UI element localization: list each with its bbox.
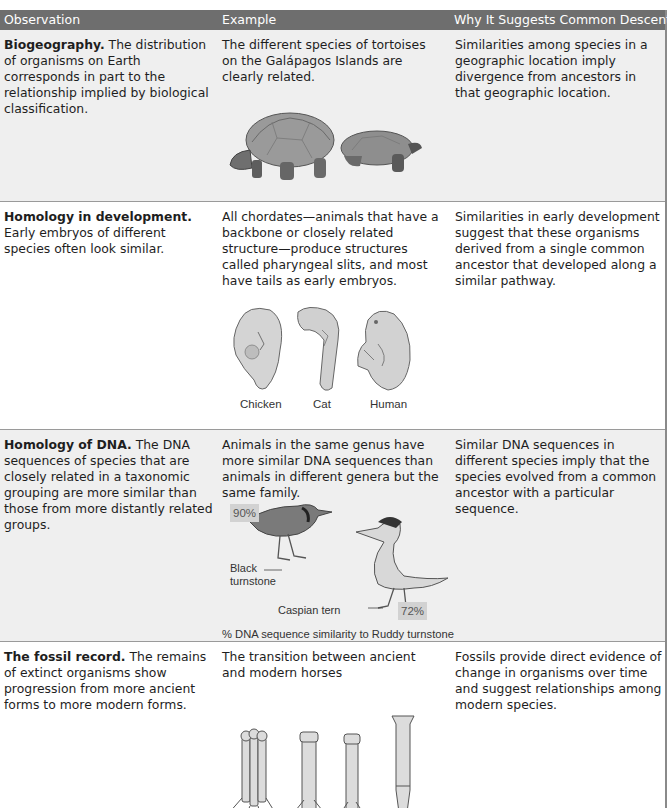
observation-title: The fossil record. (4, 649, 126, 664)
label-black-turnstone: Black turnstone (230, 562, 290, 588)
cropped-caption-strip (0, 0, 670, 10)
observation-cell: The fossil record. The remains of extinc… (0, 642, 218, 808)
example-cell: All chordates—animals that have a backbo… (218, 202, 446, 429)
textbook-page: Observation Example Why It Suggests Comm… (0, 0, 670, 808)
example-text: All chordates—animals that have a backbo… (222, 209, 442, 289)
observation-cell: Homology of DNA. The DNA sequences of sp… (0, 430, 218, 641)
observation-title: Homology in development. (4, 209, 192, 224)
why-cell: Fossils provide direct evidence of chang… (446, 642, 667, 808)
header-why: Why It Suggests Common Descent (446, 10, 667, 30)
label-chicken: Chicken (240, 396, 282, 412)
label-human: Human (370, 396, 407, 412)
table-row-homology-dna: Homology of DNA. The DNA sequences of sp… (0, 430, 665, 642)
example-text: The transition between ancient and moder… (222, 649, 442, 681)
example-cell: The transition between ancient and moder… (218, 642, 446, 808)
label-caspian-tern: Caspian tern (278, 604, 340, 617)
header-example: Example (218, 10, 446, 30)
table-header: Observation Example Why It Suggests Comm… (0, 10, 665, 30)
label-cat: Cat (313, 396, 331, 412)
observation-text: Early embryos of different species often… (4, 225, 166, 256)
table-row-biogeography: Biogeography. The distribution of organi… (0, 30, 665, 202)
example-text: The different species of tortoises on th… (222, 37, 442, 85)
figure-caption: % DNA sequence similarity to Ruddy turns… (222, 626, 454, 642)
tortoises-illustration (222, 110, 422, 190)
header-observation: Observation (0, 10, 218, 30)
example-cell: The different species of tortoises on th… (218, 30, 446, 201)
table-row-fossil-record: The fossil record. The remains of extinc… (0, 642, 665, 808)
observation-title: Homology of DNA. (4, 437, 132, 452)
horse-leg-bones-illustration (218, 710, 448, 808)
embryos-illustration: Chicken Cat Human (218, 300, 446, 415)
why-cell: Similarities among species in a geograph… (446, 30, 667, 201)
observation-cell: Biogeography. The distribution of organi… (0, 30, 218, 201)
birds-illustration: 90% Black turnstone Caspian tern 72% % D… (218, 492, 478, 642)
pct-caspian-tern: 72% (398, 602, 427, 620)
table-row-homology-development: Homology in development. Early embryos o… (0, 202, 665, 430)
example-cell: Animals in the same genus have more simi… (218, 430, 446, 641)
observation-cell: Homology in development. Early embryos o… (0, 202, 218, 429)
pct-black-turnstone: 90% (230, 504, 259, 522)
embryo-drawings (218, 300, 446, 400)
evidence-table: Observation Example Why It Suggests Comm… (0, 10, 667, 808)
why-cell: Similar DNA sequences in different speci… (446, 430, 667, 641)
observation-title: Biogeography. (4, 37, 105, 52)
why-cell: Similarities in early development sugges… (446, 202, 667, 429)
